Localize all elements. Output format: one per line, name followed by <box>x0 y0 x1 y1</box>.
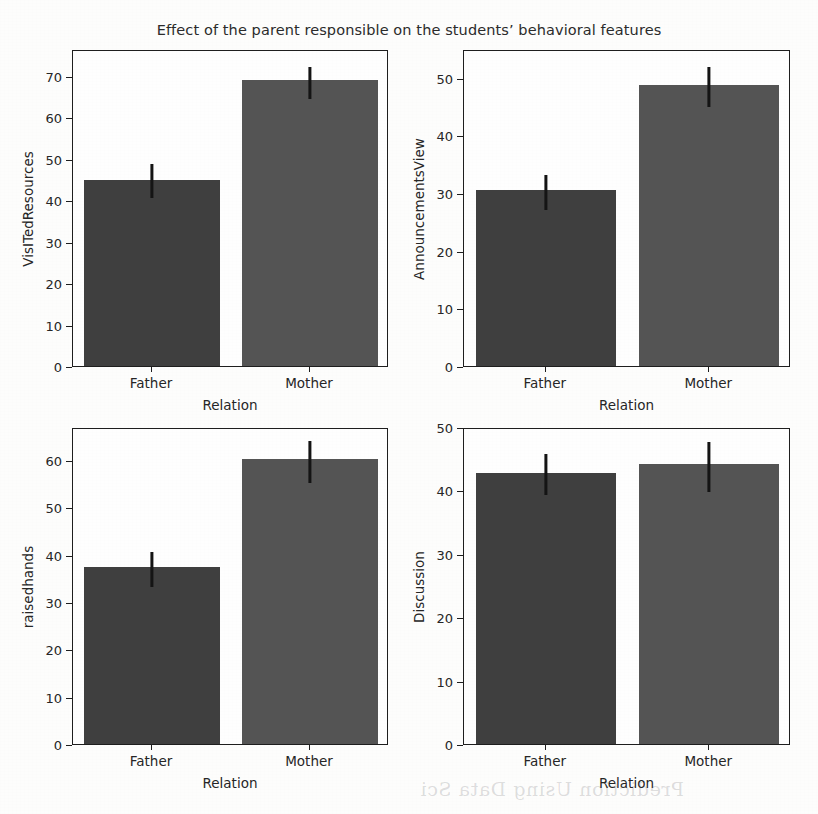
y-tick-mark <box>66 201 72 202</box>
bar-announcements-view-father <box>476 190 616 366</box>
x-tick-label-mother: Mother <box>684 375 732 391</box>
error-bar-visited-resources-mother <box>308 67 311 99</box>
x-tick-mark <box>708 745 709 750</box>
y-tick-mark <box>457 136 463 137</box>
y-tick-label: 20 <box>45 643 62 658</box>
y-tick-mark <box>457 682 463 683</box>
plot-area-raisedhands <box>72 428 388 745</box>
x-axis-title-visited-resources: Relation <box>72 397 388 413</box>
error-bar-announcements-view-mother <box>708 67 711 108</box>
error-bar-discussion-father <box>544 454 547 495</box>
error-bar-visited-resources-father <box>150 164 153 198</box>
y-tick-label: 10 <box>45 690 62 705</box>
y-tick-label: 10 <box>436 674 453 689</box>
subplot-raisedhands: 0102030405060raisedhandsFatherMotherRela… <box>12 422 388 809</box>
bar-raisedhands-mother <box>242 459 377 744</box>
bar-raisedhands-father <box>84 567 219 744</box>
plot-area-announcements-view <box>463 50 790 367</box>
x-tick-mark <box>309 745 310 750</box>
x-axis-announcements-view: FatherMotherRelation <box>463 367 790 427</box>
y-tick-mark <box>66 284 72 285</box>
y-tick-mark <box>66 556 72 557</box>
x-tick-mark <box>545 367 546 372</box>
x-tick-label-father: Father <box>130 375 173 391</box>
x-tick-label-father: Father <box>523 753 566 769</box>
error-bar-raisedhands-mother <box>308 441 311 483</box>
y-tick-label: 60 <box>45 111 62 126</box>
bleed-through-ghost-text: Prediction Using Data Sci <box>420 778 684 800</box>
x-tick-label-mother: Mother <box>285 375 333 391</box>
y-axis-title-discussion: Discussion <box>411 551 427 623</box>
y-tick-label: 70 <box>45 69 62 84</box>
y-tick-label: 20 <box>436 244 453 259</box>
x-axis-raisedhands: FatherMotherRelation <box>72 745 388 805</box>
x-axis-visited-resources: FatherMotherRelation <box>72 367 388 427</box>
y-tick-mark <box>66 243 72 244</box>
x-tick-label-father: Father <box>523 375 566 391</box>
y-tick-label: 50 <box>436 421 453 436</box>
y-tick-mark <box>457 491 463 492</box>
y-tick-mark <box>457 252 463 253</box>
y-tick-mark <box>457 309 463 310</box>
y-tick-label: 0 <box>54 738 62 753</box>
y-tick-mark <box>66 77 72 78</box>
x-tick-mark <box>151 745 152 750</box>
figure-title: Effect of the parent responsible on the … <box>0 22 818 38</box>
y-tick-label: 50 <box>436 71 453 86</box>
x-tick-label-mother: Mother <box>285 753 333 769</box>
x-tick-mark <box>151 367 152 372</box>
error-bar-announcements-view-father <box>544 175 547 210</box>
y-tick-mark <box>66 603 72 604</box>
x-axis-title-raisedhands: Relation <box>72 775 388 791</box>
y-tick-mark <box>457 79 463 80</box>
x-tick-mark <box>309 367 310 372</box>
y-tick-mark <box>66 160 72 161</box>
y-tick-mark <box>457 618 463 619</box>
y-tick-label: 40 <box>436 129 453 144</box>
y-tick-label: 0 <box>445 360 453 375</box>
y-tick-mark <box>66 461 72 462</box>
x-tick-mark <box>545 745 546 750</box>
error-bar-raisedhands-father <box>150 552 153 587</box>
figure-canvas: Effect of the parent responsible on the … <box>0 0 818 814</box>
y-tick-label: 0 <box>445 738 453 753</box>
y-tick-label: 60 <box>45 454 62 469</box>
y-tick-mark <box>457 428 463 429</box>
y-axis-title-visited-resources: VisITedResources <box>20 151 36 266</box>
y-tick-label: 10 <box>436 302 453 317</box>
plot-area-discussion <box>463 428 790 745</box>
y-tick-label: 40 <box>45 548 62 563</box>
y-tick-mark <box>66 118 72 119</box>
y-tick-label: 50 <box>45 152 62 167</box>
plot-area-visited-resources <box>72 50 388 367</box>
y-tick-label: 30 <box>436 187 453 202</box>
y-axis-title-raisedhands: raisedhands <box>20 545 36 627</box>
bar-discussion-father <box>476 473 616 744</box>
subplot-discussion: 01020304050DiscussionFatherMotherRelatio… <box>403 422 790 809</box>
y-tick-label: 20 <box>45 277 62 292</box>
subplot-visited-resources: 010203040506070VisITedResourcesFatherMot… <box>12 44 388 431</box>
bar-discussion-mother <box>639 464 779 744</box>
subplot-announcements-view: 01020304050AnnouncementsViewFatherMother… <box>403 44 790 431</box>
y-tick-label: 50 <box>45 501 62 516</box>
error-bar-discussion-mother <box>708 442 711 492</box>
y-axis-title-announcements-view: AnnouncementsView <box>411 138 427 280</box>
x-axis-title-announcements-view: Relation <box>463 397 790 413</box>
y-tick-mark <box>66 650 72 651</box>
bar-visited-resources-father <box>84 180 219 366</box>
bar-announcements-view-mother <box>639 85 779 366</box>
x-tick-mark <box>708 367 709 372</box>
x-tick-label-father: Father <box>130 753 173 769</box>
y-tick-label: 30 <box>45 235 62 250</box>
bar-visited-resources-mother <box>242 80 377 366</box>
y-tick-label: 30 <box>45 596 62 611</box>
y-tick-label: 20 <box>436 611 453 626</box>
y-tick-mark <box>66 326 72 327</box>
y-tick-label: 40 <box>436 484 453 499</box>
y-tick-mark <box>66 698 72 699</box>
y-tick-label: 0 <box>54 360 62 375</box>
y-tick-mark <box>457 194 463 195</box>
x-tick-label-mother: Mother <box>684 753 732 769</box>
y-tick-label: 30 <box>436 547 453 562</box>
y-tick-label: 10 <box>45 318 62 333</box>
